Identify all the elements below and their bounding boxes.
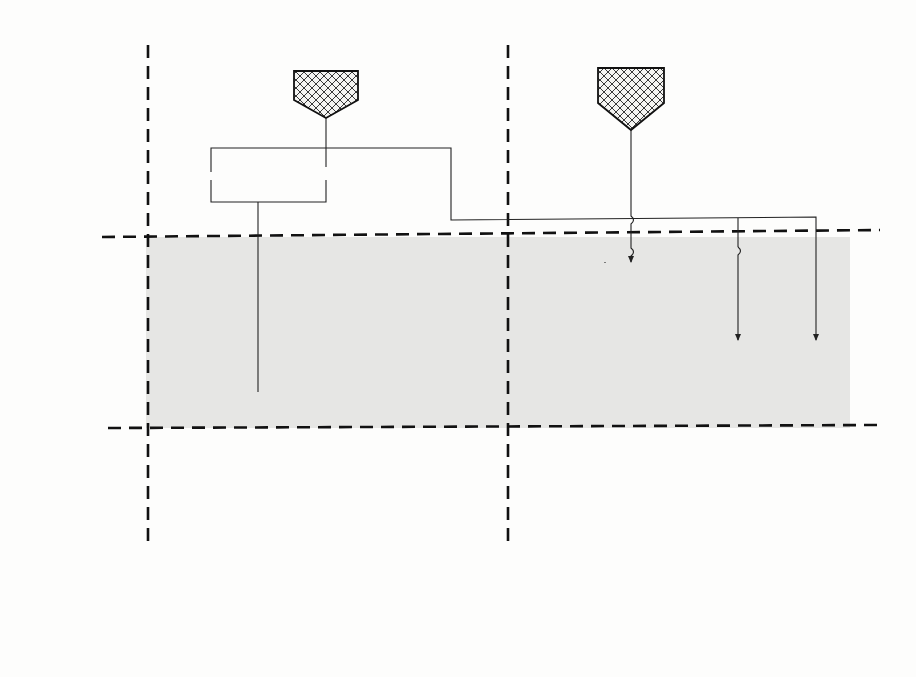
erosion-band — [146, 237, 850, 428]
mine-waters-input-icon — [598, 68, 664, 130]
sediment-flow-diagram — [0, 0, 916, 677]
spoil-input-icon — [294, 71, 358, 118]
